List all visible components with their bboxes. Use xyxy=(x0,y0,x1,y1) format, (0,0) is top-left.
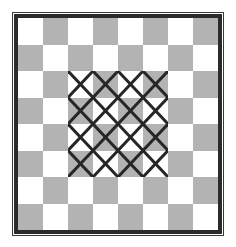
board-cell xyxy=(18,204,43,231)
board-cell xyxy=(68,177,93,204)
board-cell xyxy=(93,151,118,178)
board-cell xyxy=(143,177,168,204)
board-cell xyxy=(68,124,93,151)
board-cell xyxy=(118,151,143,178)
board-cell xyxy=(68,45,93,72)
board-cell xyxy=(143,18,168,45)
checkerboard-grid xyxy=(18,18,218,230)
board-cell xyxy=(168,151,193,178)
board-cell xyxy=(93,204,118,231)
board-cell xyxy=(118,71,143,98)
board-cell xyxy=(93,18,118,45)
board-cell xyxy=(43,204,68,231)
board-cell xyxy=(43,124,68,151)
board-cell xyxy=(43,151,68,178)
board-cell xyxy=(118,204,143,231)
board-cell xyxy=(18,45,43,72)
board-cell xyxy=(143,45,168,72)
figure-canvas xyxy=(0,0,236,247)
board-cell xyxy=(193,204,218,231)
board-cell xyxy=(168,71,193,98)
board-cell xyxy=(193,98,218,125)
board-cell xyxy=(43,45,68,72)
board-cell xyxy=(68,98,93,125)
board-cell xyxy=(118,18,143,45)
board-cell xyxy=(18,177,43,204)
board-cell xyxy=(93,71,118,98)
board-cell xyxy=(118,45,143,72)
board-cell xyxy=(93,45,118,72)
board-cell xyxy=(43,18,68,45)
board-cell xyxy=(68,18,93,45)
board-cell xyxy=(168,124,193,151)
board-cell xyxy=(143,71,168,98)
board-cell xyxy=(43,177,68,204)
board-cell xyxy=(193,45,218,72)
board-cell xyxy=(18,98,43,125)
board-cell xyxy=(68,204,93,231)
board-cell xyxy=(143,151,168,178)
board-cell xyxy=(18,71,43,98)
board-cell xyxy=(43,71,68,98)
board-cell xyxy=(143,98,168,125)
board-cell xyxy=(118,98,143,125)
board-cell xyxy=(68,71,93,98)
board-cell xyxy=(168,45,193,72)
board-cell xyxy=(18,18,43,45)
board-cell xyxy=(118,124,143,151)
board-cell xyxy=(143,204,168,231)
board-cell xyxy=(193,124,218,151)
board-cell xyxy=(193,177,218,204)
board-cell xyxy=(93,177,118,204)
board-cell xyxy=(18,151,43,178)
board-cell xyxy=(168,177,193,204)
board-cell xyxy=(43,98,68,125)
board-cell xyxy=(168,204,193,231)
board-cell xyxy=(18,124,43,151)
board-cell xyxy=(193,151,218,178)
board-cell xyxy=(143,124,168,151)
board-cell xyxy=(93,124,118,151)
board-cell xyxy=(68,151,93,178)
board-cell xyxy=(93,98,118,125)
board-cell xyxy=(168,18,193,45)
board-cell xyxy=(118,177,143,204)
board-cell xyxy=(168,98,193,125)
board-cell xyxy=(193,71,218,98)
board-cell xyxy=(193,18,218,45)
